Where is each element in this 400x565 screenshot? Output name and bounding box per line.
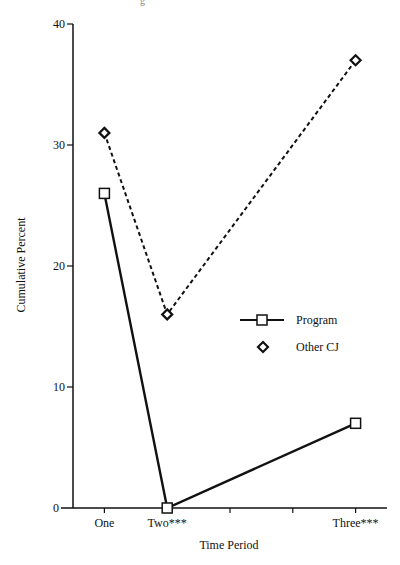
data-point-diamond [351, 55, 361, 65]
x-tick-label: Two*** [148, 516, 187, 530]
legend-diamond-marker-icon [258, 342, 268, 352]
data-point-square [162, 503, 172, 513]
x-axis-title: Time Period [199, 538, 258, 552]
legend-label-other-cj: Other CJ [296, 340, 339, 354]
legend-square-marker-icon [257, 315, 267, 325]
y-tick-label: 0 [53, 501, 59, 515]
x-ticks: OneTwo***Three*** [94, 508, 378, 530]
y-tick-label: 10 [53, 380, 65, 394]
series-line-other-cj [104, 60, 355, 314]
data-point-diamond [99, 128, 109, 138]
line-chart: g 010203040 OneTwo***Three*** Cumulative… [0, 0, 400, 565]
x-tick-label: One [94, 516, 114, 530]
data-point-square [99, 188, 109, 198]
y-tick-label: 20 [53, 259, 65, 273]
y-tick-label: 40 [53, 17, 65, 31]
y-axis-title: Cumulative Percent [14, 217, 28, 313]
series-other-cj [99, 55, 360, 319]
legend-item-program: Program [240, 313, 338, 327]
data-point-square [351, 418, 361, 428]
legend-item-other-cj: Other CJ [258, 340, 339, 354]
y-tick-label: 30 [53, 138, 65, 152]
clipped-text-fragment: g [140, 0, 145, 6]
axes: 010203040 OneTwo***Three*** [53, 17, 387, 530]
legend: Program Other CJ [240, 313, 339, 354]
legend-label-program: Program [296, 313, 338, 327]
y-ticks: 010203040 [53, 17, 73, 515]
x-tick-label: Three*** [333, 516, 379, 530]
series-layer [99, 55, 360, 513]
